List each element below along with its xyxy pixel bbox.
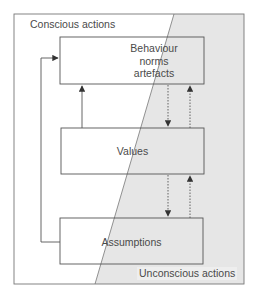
behaviour-label-line-3: artefacts [134,67,174,80]
conscious-actions-label: Conscious actions [30,18,115,31]
values-box-label: Values [61,140,204,162]
behaviour-label-line-2: norms [139,55,168,68]
assumptions-to-behaviour-feedback-arrow [41,58,60,242]
values-label: Values [117,145,148,158]
unconscious-actions-label: Unconscious actions [137,267,237,280]
assumptions-label: Assumptions [101,236,161,249]
behaviour-box-label: Behaviour norms artefacts [104,37,204,84]
behaviour-label-line-1: Behaviour [130,42,177,55]
assumptions-box-label: Assumptions [60,231,203,253]
culture-levels-diagram: Conscious actions Unconscious actions Be… [0,0,257,299]
